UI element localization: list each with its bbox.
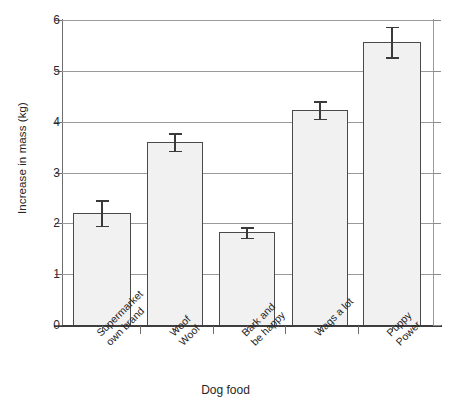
error-bar-stem — [319, 101, 321, 118]
error-bar-cap-lower — [96, 226, 109, 228]
right-axis-tick — [433, 71, 441, 72]
x-axis-group-separator-tick — [140, 326, 141, 334]
error-bar-cap-lower — [386, 57, 399, 59]
error-bar-cap-upper — [169, 133, 182, 135]
x-axis-group-separator-tick — [358, 326, 359, 334]
y-axis-tick-label: 3 — [20, 167, 60, 179]
y-axis-tick-label: 1 — [20, 268, 60, 280]
right-axis-tick — [433, 20, 441, 21]
y-axis-tick-label: 6 — [20, 14, 60, 26]
right-axis-tick — [433, 122, 441, 123]
y-axis-tick-label: 4 — [20, 116, 60, 128]
error-bar-cap-lower — [169, 151, 182, 153]
error-bar-cap-lower — [241, 238, 254, 240]
bar-chart-figure: Increase in mass (kg) 0123456 Supermarke… — [0, 0, 451, 409]
y-axis-tick-label: 2 — [20, 217, 60, 229]
error-bar-stem — [391, 27, 393, 58]
gridline — [62, 20, 434, 21]
x-axis-title: Dog food — [0, 383, 451, 397]
error-bar-cap-upper — [241, 227, 254, 229]
error-bar-cap-upper — [386, 27, 399, 29]
error-bar-stem — [101, 200, 103, 225]
right-axis-tick — [433, 325, 441, 326]
x-axis-group-separator-tick — [213, 326, 214, 334]
y-axis-tick-label: 5 — [20, 65, 60, 77]
error-bar-cap-upper — [96, 200, 109, 202]
error-bar-stem — [174, 133, 176, 150]
error-bar-cap-lower — [314, 119, 327, 121]
bottom-caption-fragment — [6, 401, 451, 409]
error-bar-cap-upper — [314, 101, 327, 103]
y-axis-tick-label: 0 — [20, 319, 60, 331]
right-axis-tick — [433, 173, 441, 174]
x-axis-group-separator-tick — [285, 326, 286, 334]
right-axis-tick — [433, 223, 441, 224]
